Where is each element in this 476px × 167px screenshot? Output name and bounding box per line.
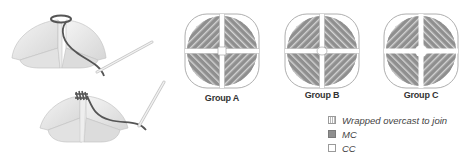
- group-a-label: Group A: [192, 93, 252, 103]
- legend-label: MC: [342, 129, 357, 140]
- legend-label: Wrapped overcast to join: [342, 115, 447, 126]
- legend-item-cc: CC: [328, 143, 356, 153]
- cc-swatch-icon: [328, 144, 336, 152]
- group-a-diagram: [183, 12, 261, 90]
- legend-label: CC: [342, 143, 356, 154]
- wrapped-swatch-icon: [328, 116, 336, 124]
- join-illustration-bottom: [0, 80, 170, 150]
- mc-swatch-icon: [328, 130, 336, 138]
- group-b-diagram: [283, 12, 361, 90]
- group-b-label: Group B: [292, 90, 352, 100]
- join-illustration-top: [0, 0, 170, 82]
- legend-item-wrapped: Wrapped overcast to join: [328, 115, 447, 125]
- group-c-diagram: [382, 12, 460, 90]
- group-c-label: Group C: [391, 90, 451, 100]
- legend-item-mc: MC: [328, 129, 357, 139]
